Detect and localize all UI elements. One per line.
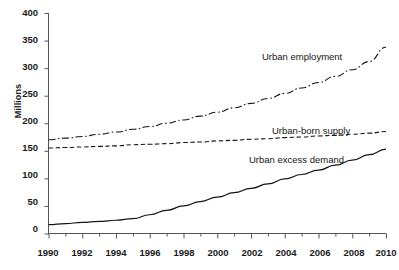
y-tick-label-300: 300 xyxy=(4,62,38,72)
x-tick-label-2010: 2010 xyxy=(366,248,399,258)
y-tick-label-250: 250 xyxy=(4,89,38,99)
cropped-title-fragment xyxy=(150,0,260,2)
y-axis-ticks xyxy=(45,14,49,235)
y-tick-label-50: 50 xyxy=(4,197,38,207)
axis-lines xyxy=(48,13,386,234)
x-axis-ticks xyxy=(49,234,387,239)
series-label-urban-born-supply: Urban-born supply xyxy=(272,125,350,136)
y-tick-label-200: 200 xyxy=(4,116,38,126)
y-tick-label-400: 400 xyxy=(4,8,38,18)
chart-figure: Millions 400 350 300 250 200 150 100 50 … xyxy=(0,0,399,270)
y-tick-label-0: 0 xyxy=(4,224,38,234)
y-tick-label-150: 150 xyxy=(4,143,38,153)
y-axis-label: Millions xyxy=(13,61,23,141)
series-label-urban-excess-demand: Urban excess demand xyxy=(249,154,344,165)
series-label-urban-employment: Urban employment xyxy=(262,51,342,62)
y-tick-label-350: 350 xyxy=(4,35,38,45)
y-tick-label-100: 100 xyxy=(4,170,38,180)
